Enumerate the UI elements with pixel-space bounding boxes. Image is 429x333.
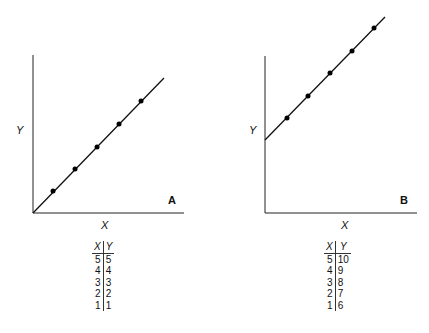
chart-b: [265, 17, 417, 213]
table-header-y: Y: [335, 241, 351, 253]
cell-y: 10: [335, 253, 351, 265]
data-point: [306, 94, 311, 99]
data-point: [372, 26, 377, 31]
cell-x: 3: [92, 277, 103, 289]
chart-a-x-label: X: [101, 219, 108, 231]
chart-b-panel-label: B: [400, 194, 408, 206]
cell-x: 1: [324, 300, 335, 312]
chart-b-data-table: X Y 510 49 38 27 16: [324, 241, 351, 311]
cell-y: 7: [335, 288, 351, 300]
cell-y: 1: [103, 300, 114, 312]
table-row: 510: [324, 253, 351, 265]
cell-x: 5: [324, 253, 335, 265]
cell-x: 4: [92, 265, 103, 277]
cell-y: 2: [103, 288, 114, 300]
table-row: 38: [324, 277, 351, 289]
table-header-row: X Y: [92, 241, 114, 253]
cell-x: 5: [92, 253, 103, 265]
cell-y: 8: [335, 277, 351, 289]
data-point: [51, 189, 56, 194]
cell-y: 3: [103, 277, 114, 289]
cell-x: 2: [92, 288, 103, 300]
chart-a-y-label: Y: [16, 124, 23, 136]
data-point: [139, 99, 144, 104]
data-point: [285, 116, 290, 121]
table-header-y: Y: [103, 241, 114, 253]
cell-y: 5: [103, 253, 114, 265]
table-row: 27: [324, 288, 351, 300]
chart-b-x-label: X: [341, 219, 348, 231]
data-point: [328, 71, 333, 76]
table-header-row: X Y: [324, 241, 351, 253]
cell-y: 9: [335, 265, 351, 277]
table-row: 22: [92, 288, 114, 300]
table-header-x: X: [324, 241, 335, 253]
cell-x: 4: [324, 265, 335, 277]
table-row: 11: [92, 300, 114, 312]
table-header-x: X: [92, 241, 103, 253]
chart-b-y-label: Y: [249, 124, 256, 136]
data-point: [117, 122, 122, 127]
chart-b-line: [265, 17, 385, 140]
chart-a-panel-label: A: [168, 194, 176, 206]
table-row: 49: [324, 265, 351, 277]
chart-a: [33, 55, 184, 213]
table-row: 55: [92, 253, 114, 265]
table-row: 16: [324, 300, 351, 312]
table-row: 44: [92, 265, 114, 277]
cell-x: 2: [324, 288, 335, 300]
cell-y: 6: [335, 300, 351, 312]
data-point: [350, 49, 355, 54]
data-point: [73, 167, 78, 172]
data-point: [95, 145, 100, 150]
cell-x: 1: [92, 300, 103, 312]
table-row: 33: [92, 277, 114, 289]
charts-canvas: [0, 0, 429, 333]
chart-a-data-table: X Y 55 44 33 22 11: [92, 241, 114, 311]
cell-y: 4: [103, 265, 114, 277]
cell-x: 3: [324, 277, 335, 289]
